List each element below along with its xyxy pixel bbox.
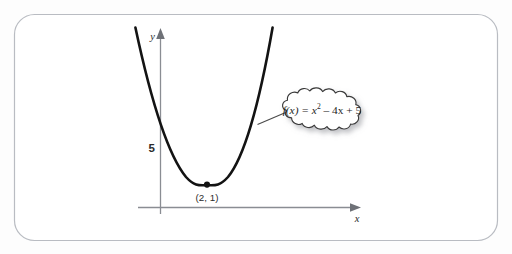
x-axis-label: x (354, 213, 360, 224)
vertex-point (204, 182, 210, 188)
vertex-coordinate-label: (2, 1) (196, 192, 219, 203)
graph-figure: f(x) = x2 – 4x + 5 5 (2, 1) y x (0, 0, 512, 254)
figure-container: f(x) = x2 – 4x + 5 5 (2, 1) y x (0, 0, 512, 254)
callout-arg: (x) = (286, 104, 312, 117)
panel-border (15, 15, 498, 241)
y-tick-label-5: 5 (149, 142, 156, 154)
callout-rest: – 4x + 5 (321, 104, 362, 116)
callout-equation-text: f(x) = x2 – 4x + 5 (283, 102, 362, 116)
y-axis-label: y (149, 31, 155, 42)
